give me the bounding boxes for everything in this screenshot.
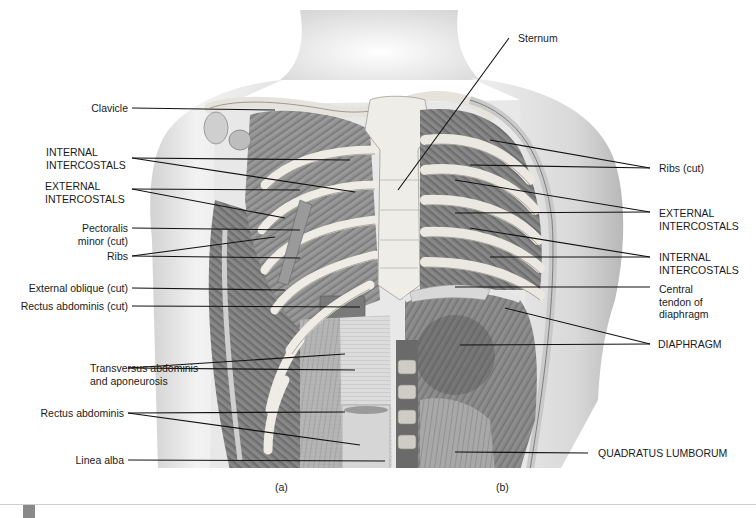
- panel-label-b: (b): [496, 481, 509, 493]
- label-text: Central: [659, 283, 709, 296]
- label-text: External oblique (cut): [29, 282, 128, 294]
- footer-tab-marker: [23, 505, 35, 518]
- label-text: Ribs (cut): [659, 162, 704, 174]
- label-linea-alba: Linea alba: [20, 454, 124, 467]
- label-text: INTERNAL: [46, 146, 126, 159]
- label-clavicle: Clavicle: [48, 102, 128, 115]
- label-text: INTERCOSTALS: [659, 220, 739, 233]
- label-text: Ribs: [107, 250, 128, 262]
- label-text: (b): [496, 481, 509, 493]
- label-external-oblique: External oblique (cut): [0, 282, 128, 295]
- label-text: diaphragm: [659, 308, 709, 321]
- label-external-intercostals-left: EXTERNAL INTERCOSTALS: [45, 180, 125, 205]
- label-rectus-abdominis: Rectus abdominis: [20, 407, 124, 420]
- label-diaphragm: DIAPHRAGM: [658, 338, 722, 351]
- label-text: Pectoralis: [48, 222, 128, 235]
- label-text: and aponeurosis: [90, 375, 198, 388]
- label-internal-intercostals-left: INTERNAL INTERCOSTALS: [46, 146, 126, 171]
- label-text: Rectus abdominis (cut): [21, 300, 128, 312]
- label-text: INTERCOSTALS: [46, 159, 126, 172]
- label-sternum: Sternum: [518, 32, 558, 45]
- label-text: (a): [275, 481, 288, 493]
- label-text: minor (cut): [48, 235, 128, 248]
- label-rectus-abdominis-cut: Rectus abdominis (cut): [0, 300, 128, 313]
- panel-label-a: (a): [275, 481, 288, 493]
- label-transversus-abdominis: Transversus abdominis and aponeurosis: [90, 362, 198, 387]
- label-text: EXTERNAL: [659, 207, 739, 220]
- label-quadratus-lumborum: QUADRATUS LUMBORUM: [598, 447, 727, 460]
- label-text: Clavicle: [91, 102, 128, 114]
- label-text: Rectus abdominis: [41, 407, 124, 419]
- label-text: Transversus abdominis: [90, 362, 198, 375]
- label-text: DIAPHRAGM: [658, 338, 722, 350]
- label-pectoralis-minor: Pectoralis minor (cut): [48, 222, 128, 247]
- label-internal-intercostals-right: INTERNAL INTERCOSTALS: [659, 251, 739, 276]
- label-ribs-left: Ribs: [48, 250, 128, 263]
- label-text: INTERNAL: [659, 251, 739, 264]
- vertebrae: [396, 340, 418, 470]
- label-text: EXTERNAL: [45, 180, 125, 193]
- label-external-intercostals-right: EXTERNAL INTERCOSTALS: [659, 207, 739, 232]
- label-text: Linea alba: [76, 454, 124, 466]
- label-text: Sternum: [518, 32, 558, 44]
- footer-divider: [0, 504, 756, 505]
- label-central-tendon: Central tendon of diaphragm: [659, 283, 709, 321]
- label-text: QUADRATUS LUMBORUM: [598, 447, 727, 459]
- label-text: tendon of: [659, 296, 709, 309]
- label-text: INTERCOSTALS: [45, 193, 125, 206]
- label-ribs-cut: Ribs (cut): [659, 162, 704, 175]
- label-text: INTERCOSTALS: [659, 264, 739, 277]
